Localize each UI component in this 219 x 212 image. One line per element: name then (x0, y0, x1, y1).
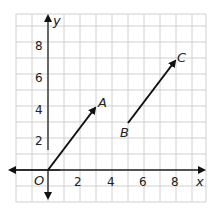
coordinate-plane: 8 6 4 2 2 4 6 8 O x y A B C (0, 0, 219, 212)
y-tick-8: 8 (35, 39, 43, 53)
point-B-label: B (120, 125, 129, 140)
y-tick-6: 6 (35, 71, 43, 85)
y-axis-label: y (52, 13, 61, 28)
grid (16, 14, 206, 202)
y-tick-4: 4 (35, 103, 43, 117)
point-C-label: C (177, 50, 187, 65)
x-tick-6: 6 (139, 175, 147, 189)
x-axis-label: x (195, 174, 204, 189)
vector-BC (128, 61, 175, 123)
x-tick-4: 4 (107, 175, 115, 189)
vector-OA (48, 108, 95, 170)
x-tick-8: 8 (171, 175, 179, 189)
point-A-label: A (97, 95, 107, 110)
origin-label: O (34, 173, 44, 188)
x-tick-2: 2 (74, 175, 82, 189)
y-tick-2: 2 (35, 134, 43, 148)
